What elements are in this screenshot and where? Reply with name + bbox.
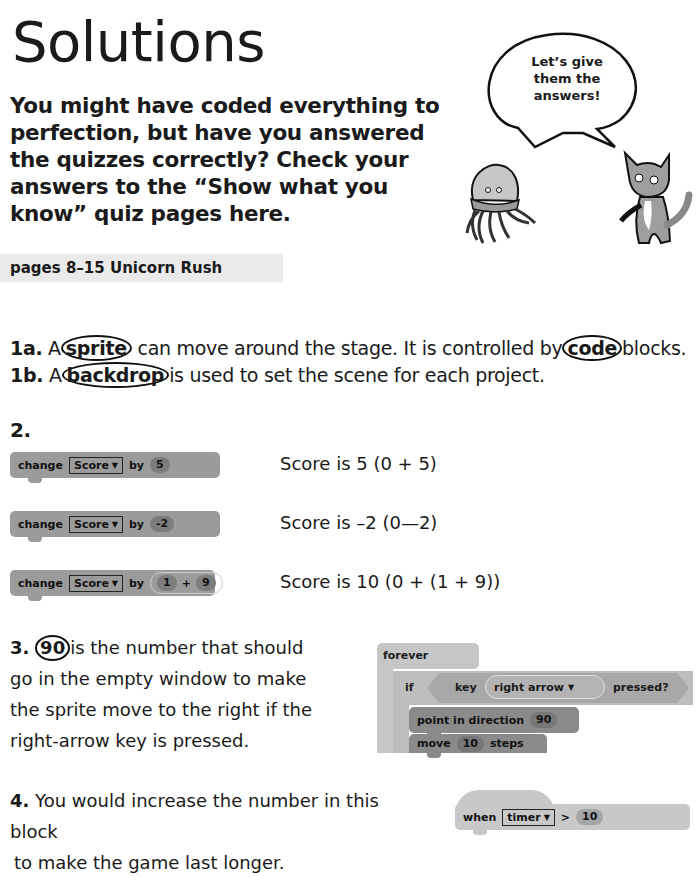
point-in-direction-block: point in direction 90 (409, 707, 579, 733)
jellyfish-icon (467, 165, 535, 243)
text: blocks. (622, 337, 686, 359)
change-score-block: change Score▼ by -2 (10, 511, 220, 537)
variable-dropdown: Score▼ (69, 575, 123, 592)
circled-answer: backdrop (62, 362, 170, 388)
number-slot: 10 (457, 736, 484, 752)
forever-arm (377, 663, 393, 753)
text: can move around the stage. It is control… (138, 337, 563, 359)
if-label: if (405, 681, 414, 694)
answer-4-line: to make the game last longer. (10, 847, 430, 877)
question-number: 3. (10, 637, 29, 658)
answer-3-line: 3. 90is the number that should (10, 632, 350, 663)
page-title: Solutions (12, 14, 265, 70)
block-label: move (417, 737, 451, 750)
answer-4: 4. You would increase the number in this… (10, 785, 430, 877)
circled-answer: 90 (35, 635, 70, 661)
dropdown-value: Score (74, 458, 109, 473)
section-header: pages 8–15 Unicorn Rush (0, 254, 283, 282)
circled-answer: code (562, 335, 622, 361)
answer-4-line: 4. You would increase the number in this… (10, 785, 430, 847)
block-label: steps (490, 737, 524, 750)
block-label: by (129, 518, 144, 531)
answer-1b: 1b. Abackdropis used to set the scene fo… (10, 362, 545, 388)
number-slot: -2 (150, 516, 174, 532)
operator: + (182, 577, 191, 590)
illustration: Let’s give them the answers! (455, 25, 699, 250)
cat-icon (621, 153, 689, 243)
number-slot: 1 (157, 575, 177, 591)
answer-2-3: Score is 10 (0 + (1 + 9)) (280, 571, 500, 592)
when-timer-hat-block: when timer▼ > 10 (455, 790, 690, 830)
number-slot: 10 (576, 809, 603, 825)
block-label: change (18, 518, 63, 531)
if-arm (393, 698, 409, 753)
question-number: 1b. (10, 364, 43, 386)
block-label: point in direction (417, 714, 524, 727)
block-label: change (18, 459, 63, 472)
dropdown-arrow-icon: ▼ (112, 517, 118, 532)
key-dropdown: right arrow▼ (485, 675, 605, 699)
number-slot: 9 (196, 575, 216, 591)
text: is used to set the scene for each projec… (169, 364, 545, 386)
sensor-dropdown: timer▼ (502, 809, 555, 826)
speech-bubble-text: Let’s give them the answers! (530, 53, 604, 104)
text: You would increase the number in this bl… (10, 790, 379, 842)
forever-script: forever if key right arrow▼ pressed? poi… (377, 643, 699, 753)
block-label: by (129, 577, 144, 590)
change-score-block: change Score▼ by 5 (10, 452, 220, 478)
move-steps-block: move 10 steps (409, 734, 547, 753)
dropdown-value: right arrow (494, 681, 564, 694)
section-title: pages 8–15 Unicorn Rush (10, 259, 222, 277)
forever-label: forever (383, 649, 428, 662)
text: A (49, 364, 62, 386)
answer-1a: 1a. Asprite can move around the stage. I… (10, 335, 686, 361)
answer-3-line: go in the empty window to make (10, 663, 350, 694)
operator: > (561, 811, 570, 824)
variable-dropdown: Score▼ (69, 516, 123, 533)
number-slot: 5 (150, 457, 170, 473)
question-number: 1a. (10, 337, 42, 359)
circled-answer: sprite (61, 335, 132, 361)
dropdown-value: timer (507, 810, 540, 825)
key-label: key (455, 681, 477, 694)
dropdown-value: Score (74, 517, 109, 532)
question-number: 2. (10, 418, 31, 442)
answer-2-2: Score is –2 (0—2) (280, 512, 437, 533)
intro-text: You might have coded everything to perfe… (10, 92, 440, 227)
change-score-block: change Score▼ by 1 + 9 (10, 570, 215, 596)
hat-body: when timer▼ > 10 (455, 804, 690, 830)
dropdown-value: Score (74, 576, 109, 591)
addition-reporter: 1 + 9 (150, 572, 223, 594)
dropdown-arrow-icon: ▼ (112, 458, 118, 473)
block-label: when (463, 811, 496, 824)
block-label: by (129, 459, 144, 472)
text: is the number that should (70, 637, 303, 658)
question-number: 4. (10, 790, 29, 811)
variable-dropdown: Score▼ (69, 457, 123, 474)
answer-3-line: right-arrow key is pressed. (10, 725, 350, 756)
number-slot: 90 (530, 712, 557, 728)
block-label: change (18, 577, 63, 590)
dropdown-arrow-icon: ▼ (568, 683, 574, 692)
answer-2-1: Score is 5 (0 + 5) (280, 453, 437, 474)
answer-3: 3. 90is the number that should go in the… (10, 632, 350, 756)
answer-3-line: the sprite move to the right if the (10, 694, 350, 725)
dropdown-arrow-icon: ▼ (544, 810, 550, 825)
pressed-label: pressed? (613, 681, 669, 694)
text: A (48, 337, 61, 359)
dropdown-arrow-icon: ▼ (112, 576, 118, 591)
